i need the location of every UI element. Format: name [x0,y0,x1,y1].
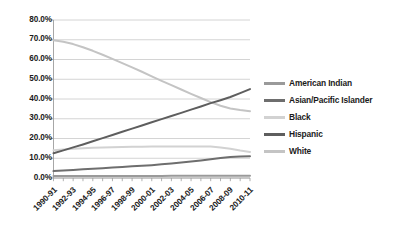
y-axis-label: 50.0% [6,75,52,83]
legend-label: American Indian [289,79,352,87]
series-line-black [54,146,251,152]
y-axis-label: 10.0% [6,154,52,162]
series-lines [54,40,251,176]
legend-label: White [289,147,311,155]
y-axis-label: 70.0% [6,35,52,43]
legend-item-black[interactable]: Black [264,109,397,126]
legend-color-swatch [264,99,285,102]
legend-color-swatch [264,82,285,85]
legend-item-asian-pacific-islander[interactable]: Asian/Pacific Islander [264,92,397,109]
gridlines [54,20,251,178]
enrollment-by-race-line-chart: 80.0%70.0%60.0%50.0%40.0%30.0%20.0%10.0%… [0,0,399,238]
y-axis-label: 40.0% [6,95,52,103]
legend-label: Asian/Pacific Islander [289,96,372,104]
y-axis-label: 80.0% [6,16,52,24]
legend-color-swatch [264,150,285,153]
x-axis-tick-marks [54,178,251,181]
legend-label: Black [289,113,311,121]
legend-item-american-indian[interactable]: American Indian [264,75,397,92]
legend-color-swatch [264,116,285,119]
legend-item-hispanic[interactable]: Hispanic [264,126,397,143]
y-axis-label: 30.0% [6,114,52,122]
legend-color-swatch [264,133,285,136]
y-axis-label: 60.0% [6,55,52,63]
legend-item-white[interactable]: White [264,143,397,160]
chart-legend: American IndianAsian/Pacific IslanderBla… [264,75,397,160]
y-axis-label: 20.0% [6,134,52,142]
legend-label: Hispanic [289,130,323,138]
y-axis-label: 0.0% [6,174,52,182]
